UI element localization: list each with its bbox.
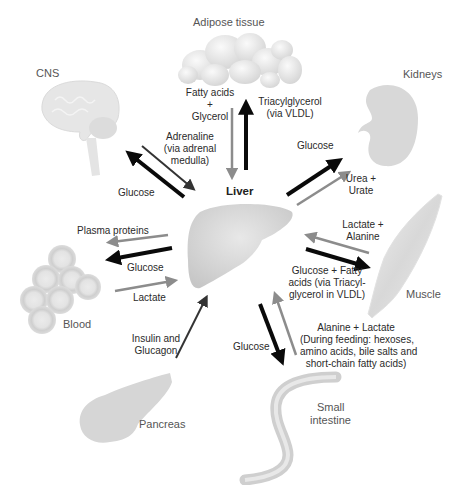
kidney-icon <box>358 85 418 166</box>
arrow-liver-to-muscle <box>306 249 364 266</box>
arrow-intestine-to-liver <box>276 297 296 355</box>
flow-label-triacylglycerol: Triacylglycerol (via VLDL) <box>254 96 326 120</box>
organ-label-muscle: Muscle <box>406 288 441 300</box>
flow-label-glucose-intestine: Glucose <box>233 341 270 353</box>
arrow-kidneys-to-liver <box>297 174 346 205</box>
organ-label-liver: Liver <box>226 185 254 197</box>
small-intestine-icon <box>245 377 336 480</box>
flow-label-lactate-alanine: Lactate + Alanine <box>338 219 388 243</box>
organ-label-small-intestine-line2: intestine <box>310 414 351 426</box>
flow-label-insulin-glucagon: Insulin and Glucagon <box>130 333 182 357</box>
flow-label-fatty-acids-glycerol: Fatty acids + Glycerol <box>185 87 235 123</box>
flow-label-lactate-blood: Lactate <box>133 292 166 304</box>
liver-icon <box>188 204 293 288</box>
arrow-liver-to-blood-glucose <box>112 248 172 259</box>
pancreas-icon <box>80 373 172 443</box>
arrow-liver-to-kidneys <box>287 162 337 195</box>
flow-label-plasma-proteins: Plasma proteins <box>77 225 149 237</box>
flow-label-adrenaline: Adrenaline (via adrenal medulla) <box>162 131 218 167</box>
organ-label-small-intestine-line1: Small <box>317 401 345 413</box>
brain-icon <box>42 81 119 176</box>
organ-label-adipose: Adipose tissue <box>193 16 265 28</box>
flow-label-glucose-cns: Glucose <box>118 187 155 199</box>
organ-label-cns: CNS <box>36 67 59 79</box>
adipose-tissue-icon <box>178 33 302 88</box>
flow-label-urea-urate: Urea + Urate <box>345 173 377 197</box>
flow-label-alanine-lactate-feeding: Alanine + Lactate (During feeding: hexos… <box>300 322 412 370</box>
organ-label-kidneys: Kidneys <box>403 68 442 80</box>
organ-label-pancreas: Pancreas <box>139 418 185 430</box>
arrow-blood-to-liver <box>115 281 172 291</box>
organ-label-blood: Blood <box>63 318 91 330</box>
flow-label-glucose-blood: Glucose <box>127 262 164 274</box>
flow-label-glucose-fatty-acids: Glucose + Fatty acids (via Triacyl- glyc… <box>282 265 372 301</box>
flow-label-glucose-kidneys: Glucose <box>297 140 334 152</box>
